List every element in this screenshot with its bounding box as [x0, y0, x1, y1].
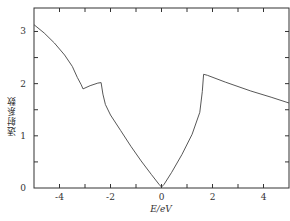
- y-axis-title: 透射系数: [4, 96, 18, 136]
- y-tick-label: 0: [20, 183, 26, 193]
- x-tick-label: 2: [210, 192, 216, 202]
- plot-frame: [34, 8, 289, 188]
- x-axis-tick-labels: -4-2024: [55, 192, 267, 202]
- x-tick-label: -4: [55, 192, 64, 202]
- y-axis-tick-labels: 0123: [20, 26, 26, 193]
- x-axis-ticks: [60, 8, 264, 188]
- y-tick-label: 1: [20, 131, 26, 141]
- x-tick-label: 0: [159, 192, 165, 202]
- x-axis-title: E/eV: [149, 204, 173, 214]
- y-axis-ticks: [34, 31, 289, 161]
- y-tick-label: 2: [20, 79, 26, 89]
- y-tick-label: 3: [20, 26, 26, 36]
- x-tick-label: -2: [106, 192, 115, 202]
- x-tick-label: 4: [261, 192, 267, 202]
- chart: -4-2024 0123 E/eV: [0, 0, 290, 221]
- transmission-curve: [34, 25, 289, 187]
